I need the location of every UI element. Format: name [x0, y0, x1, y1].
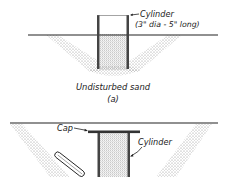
arrowhead-icon — [130, 14, 133, 17]
disturbed-sand-right-b — [156, 124, 212, 177]
sand-sampling-diagram: Cylinder (3" dia - 5" long) Undisturbed … — [0, 0, 229, 177]
arrowhead-icon — [130, 154, 133, 156]
disturbed-sand-left — [46, 35, 100, 72]
cylinder-wall-right-b — [128, 132, 131, 177]
cylinder-size-label: (3" dia - 5" long) — [135, 20, 200, 29]
caption-undisturbed-sand: Undisturbed sand — [76, 82, 151, 92]
panel-label-a: (a) — [107, 94, 119, 104]
cylinder-wall-left-b — [98, 132, 101, 177]
cap-label: Cap — [57, 123, 73, 133]
disturbed-sand-right — [128, 35, 182, 72]
sand-in-cylinder — [100, 34, 127, 70]
cylinder-wall-left — [97, 15, 100, 69]
cylinder-label-a: Cylinder — [140, 9, 175, 19]
cylinder-wall-right — [127, 15, 130, 69]
cylinder-label-b: Cylinder — [138, 137, 173, 147]
sand-in-cylinder-b — [100, 133, 128, 177]
arrowhead-icon — [84, 129, 88, 131]
panel-b: Cap Cylinder — [10, 123, 218, 177]
panel-a: Cylinder (3" dia - 5" long) Undisturbed … — [28, 9, 218, 104]
cap-plate — [88, 131, 140, 134]
